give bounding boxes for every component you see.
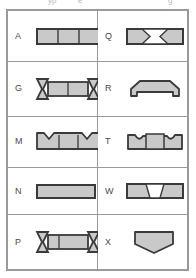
shape-figure-bowtie-ends-segmented-bar: [35, 228, 106, 256]
shape-figure-plain-rectangle: [35, 180, 102, 202]
shape-figure-rectangle-with-inner-hourglass: [125, 23, 190, 49]
table-row: A Q: [8, 11, 188, 62]
shape-code-table: A Q: [7, 10, 188, 270]
shape-figure-bowtie-ends-segmented-bar: [35, 75, 106, 103]
table-cell-w[interactable]: W: [98, 167, 188, 214]
clipped-text-fragment-1: yp: [48, 0, 56, 5]
clipped-header-text: yp e g: [0, 0, 196, 9]
table-cell-p[interactable]: P: [8, 215, 98, 270]
table-cell-x[interactable]: X: [98, 215, 188, 270]
table-row: M T: [8, 116, 188, 167]
shape-code-label: G: [15, 84, 35, 93]
table-cell-t[interactable]: T: [98, 116, 188, 167]
shape-code-label: A: [15, 32, 35, 41]
table-cell-n[interactable]: N: [8, 167, 98, 214]
shape-code-label: Q: [105, 32, 125, 41]
shape-code-label: W: [105, 187, 125, 196]
shape-figure-rectangle-with-top-v-notches: [35, 129, 106, 155]
table-row: N W: [8, 167, 188, 214]
shape-code-label: X: [105, 238, 125, 247]
shape-code-label: R: [105, 84, 125, 93]
clipped-text-fragment-3: g: [168, 0, 172, 5]
shape-code-table-container: A Q: [6, 9, 189, 271]
table-cell-g[interactable]: G: [8, 62, 98, 117]
table-cell-a[interactable]: A: [8, 11, 98, 62]
screenshot-root: yp e g A: [0, 0, 196, 278]
table-row: P X: [8, 215, 188, 270]
shape-code-label: T: [105, 137, 125, 146]
shape-code-label: M: [15, 137, 35, 146]
shape-code-label: N: [15, 187, 35, 196]
shape-figure-downward-pentagon: [125, 228, 187, 256]
shape-figure-segmented-rectangle: [35, 23, 106, 49]
table-row: G R: [8, 62, 188, 117]
shape-figure-notched-trapezoid: [125, 76, 190, 102]
table-cell-q[interactable]: Q: [98, 11, 188, 62]
shape-figure-raised-centre-with-notches: [125, 129, 190, 155]
shape-figure-rectangle-with-centre-wedge: [125, 179, 190, 203]
table-cell-r[interactable]: R: [98, 62, 188, 117]
clipped-text-fragment-2: e: [78, 0, 82, 5]
shape-code-label: P: [15, 238, 35, 247]
table-cell-m[interactable]: M: [8, 116, 98, 167]
